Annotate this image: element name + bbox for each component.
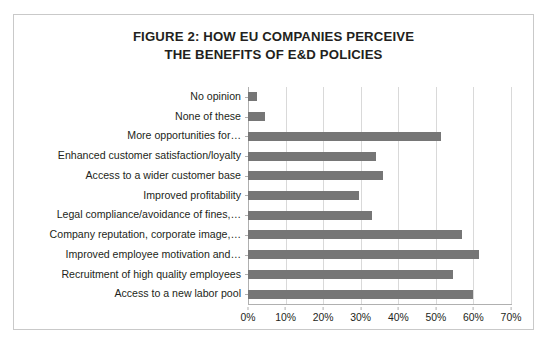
x-tick-mark — [360, 307, 361, 310]
x-tick-label: 20% — [313, 312, 334, 323]
bar-row[interactable] — [248, 166, 511, 186]
category-tick-mark — [245, 274, 248, 275]
category-label: Legal compliance/avoidance of fines,… — [57, 205, 241, 225]
bar[interactable] — [248, 230, 462, 239]
category-label: Enhanced customer satisfaction/loyalty — [58, 146, 241, 166]
category-label: None of these — [175, 107, 241, 127]
bar-row[interactable] — [248, 87, 511, 107]
bar[interactable] — [248, 211, 372, 220]
x-tick-label: 40% — [388, 312, 409, 323]
bar[interactable] — [248, 250, 479, 259]
bar-row[interactable] — [248, 245, 511, 265]
category-label: Access to a wider customer base — [86, 166, 241, 186]
category-tick-mark — [245, 156, 248, 157]
x-tick-label: 70% — [501, 312, 522, 323]
bar-row[interactable] — [248, 107, 511, 127]
bar[interactable] — [248, 270, 453, 279]
x-tick-70%: 70% — [501, 307, 522, 323]
x-tick-label: 60% — [463, 312, 484, 323]
chart-title-line-1: FIGURE 2: HOW EU COMPANIES PERCEIVE — [14, 28, 533, 46]
category-tick-mark — [245, 235, 248, 236]
category-label: No opinion — [190, 87, 241, 107]
x-axis-tick-labels: 0%10%20%30%40%50%60%70% — [248, 307, 511, 327]
category-tick-mark — [245, 97, 248, 98]
category-tick-mark — [245, 294, 248, 295]
x-tick-0%: 0% — [240, 307, 255, 323]
x-tick-60%: 60% — [463, 307, 484, 323]
bar-row[interactable] — [248, 265, 511, 285]
bar-row[interactable] — [248, 146, 511, 166]
category-label: Improved profitability — [143, 186, 241, 206]
bar-row[interactable] — [248, 284, 511, 304]
category-label: More opportunities for… — [127, 126, 241, 146]
x-tick-mark — [285, 307, 286, 310]
category-tick-mark — [245, 117, 248, 118]
bar[interactable] — [248, 171, 383, 180]
x-tick-label: 30% — [350, 312, 371, 323]
category-label: Company reputation, corporate image,… — [50, 225, 241, 245]
bar[interactable] — [248, 191, 359, 200]
x-tick-50%: 50% — [425, 307, 446, 323]
category-tick-mark — [245, 215, 248, 216]
category-tick-mark — [245, 176, 248, 177]
gridline-70% — [511, 87, 512, 304]
figure-frame: FIGURE 2: HOW EU COMPANIES PERCEIVE THE … — [13, 14, 534, 330]
bar[interactable] — [248, 112, 265, 121]
x-tick-mark — [398, 307, 399, 310]
x-tick-10%: 10% — [275, 307, 296, 323]
category-label: Access to a new labor pool — [114, 284, 241, 304]
x-tick-mark — [248, 307, 249, 310]
bar[interactable] — [248, 132, 441, 141]
category-label: Improved employee motivation and… — [66, 245, 241, 265]
category-tick-mark — [245, 195, 248, 196]
x-tick-20%: 20% — [313, 307, 334, 323]
category-tick-mark — [245, 136, 248, 137]
bar-row[interactable] — [248, 205, 511, 225]
category-tick-mark — [245, 255, 248, 256]
x-axis-line — [248, 304, 512, 305]
x-tick-mark — [323, 307, 324, 310]
bar-row[interactable] — [248, 186, 511, 206]
x-tick-label: 0% — [240, 312, 255, 323]
x-tick-mark — [435, 307, 436, 310]
chart-title: FIGURE 2: HOW EU COMPANIES PERCEIVE THE … — [14, 28, 533, 64]
bar-series — [248, 87, 511, 304]
bar[interactable] — [248, 92, 257, 101]
bar-row[interactable] — [248, 225, 511, 245]
chart-title-line-2: THE BENEFITS OF E&D POLICIES — [14, 46, 533, 64]
x-tick-40%: 40% — [388, 307, 409, 323]
x-tick-label: 10% — [275, 312, 296, 323]
x-tick-30%: 30% — [350, 307, 371, 323]
category-axis-labels: No opinionNone of theseMore opportunitie… — [14, 87, 241, 304]
x-tick-label: 50% — [425, 312, 446, 323]
plot-area — [248, 87, 511, 304]
bar-row[interactable] — [248, 126, 511, 146]
category-label: Recruitment of high quality employees — [61, 265, 241, 285]
bar[interactable] — [248, 290, 473, 299]
bar[interactable] — [248, 152, 376, 161]
x-tick-mark — [473, 307, 474, 310]
x-tick-mark — [510, 307, 511, 310]
